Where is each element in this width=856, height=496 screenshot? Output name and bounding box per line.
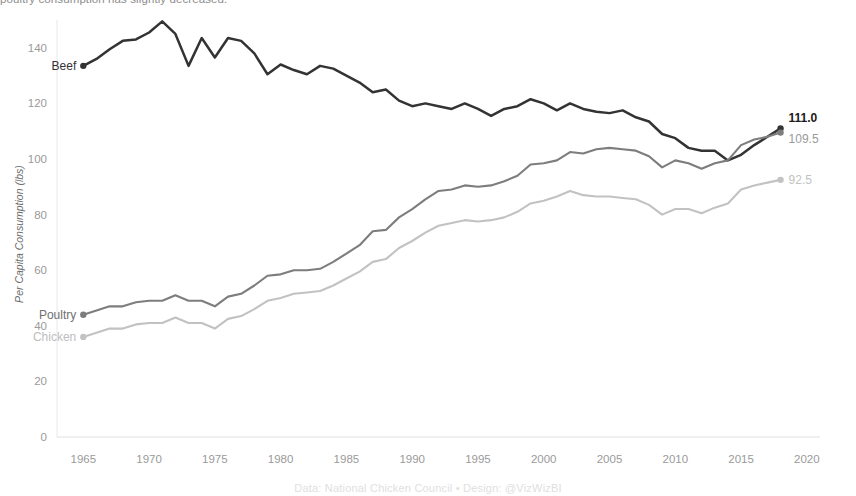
series-end-labels: 111.0109.592.5 [789, 111, 819, 186]
series-end-label-chicken: 92.5 [789, 173, 813, 187]
x-tick-label: 2015 [728, 453, 754, 465]
series-end-label-beef: 111.0 [789, 111, 818, 125]
y-tick-label: 20 [34, 375, 47, 387]
y-axis-ticks: 020406080100120140 [28, 42, 47, 443]
series-start-label-poultry: Poultry [39, 308, 76, 322]
series-end-point-chicken [777, 177, 783, 183]
x-axis-ticks: 1965197019751980198519901995200020052010… [71, 453, 820, 465]
y-tick-label: 80 [34, 209, 47, 221]
series-end-label-poultry: 109.5 [789, 132, 819, 146]
series-lines [83, 21, 780, 337]
y-tick-label: 100 [28, 153, 47, 165]
x-tick-label: 1990 [399, 453, 425, 465]
y-tick-label: 140 [28, 42, 47, 54]
series-end-point-poultry [777, 129, 783, 135]
x-tick-label: 1965 [71, 453, 97, 465]
series-start-label-chicken: Chicken [33, 330, 76, 344]
y-tick-label: 120 [28, 97, 47, 109]
series-line-chicken [83, 180, 780, 337]
line-chart-plot: 020406080100120140 196519701975198019851… [0, 0, 856, 496]
series-start-label-beef: Beef [52, 59, 77, 73]
x-tick-label: 1970 [136, 453, 162, 465]
series-line-poultry [83, 133, 780, 315]
chart-caption: Data: National Chicken Council • Design:… [0, 482, 856, 494]
x-tick-label: 2020 [794, 453, 820, 465]
chart-figure: poultry consumption has slightly decreas… [0, 0, 856, 496]
series-start-point-poultry [80, 311, 86, 317]
y-tick-label: 0 [41, 431, 47, 443]
x-tick-label: 2005 [597, 453, 623, 465]
x-tick-label: 2010 [662, 453, 688, 465]
y-tick-label: 60 [34, 264, 47, 276]
x-tick-label: 1975 [202, 453, 228, 465]
x-tick-label: 1985 [334, 453, 360, 465]
x-tick-label: 2000 [531, 453, 557, 465]
series-start-point-beef [80, 63, 86, 69]
series-line-beef [83, 21, 780, 160]
x-tick-label: 1980 [268, 453, 294, 465]
x-tick-label: 1995 [465, 453, 491, 465]
series-start-point-chicken [80, 334, 86, 340]
